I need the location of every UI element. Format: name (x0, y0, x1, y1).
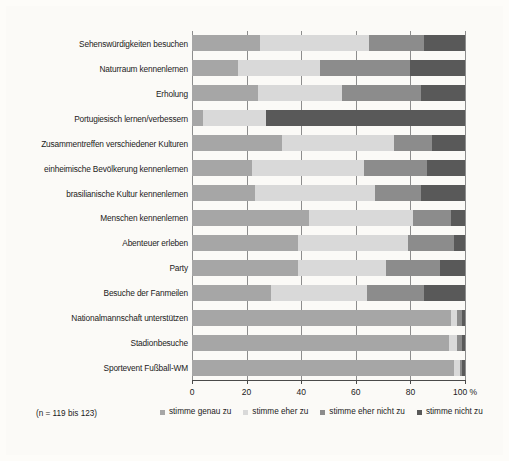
category-label: Abenteuer erleben (2, 238, 188, 248)
bar-segment-4 (462, 310, 465, 326)
bar-row (192, 235, 465, 251)
bar-segment-2 (271, 285, 367, 301)
axis-tick (356, 380, 357, 384)
category-label: Zusammentreffen verschiedener Kulturen (2, 139, 188, 149)
bar-segment-1 (192, 360, 454, 376)
category-label: einheimische Bevölkerung kennenlernen (2, 164, 188, 174)
bar-segment-3 (369, 35, 424, 51)
axis-tick-label: 80 (406, 387, 415, 397)
bar-row (192, 135, 465, 151)
bar-segment-4 (410, 60, 465, 76)
gridline-40 (301, 31, 302, 380)
bar-segment-1 (192, 160, 252, 176)
bar-segment-3 (386, 260, 441, 276)
bar-row (192, 60, 465, 76)
bar-segment-1 (192, 335, 449, 351)
bar-row (192, 210, 465, 226)
category-label: Stadionbesuche (2, 338, 188, 348)
chart-legend: stimme genau zustimme eher zustimme eher… (160, 408, 483, 416)
gridline-100 (465, 31, 466, 380)
axis-tick-label: 100 % (453, 387, 477, 397)
bar-segment-4 (462, 360, 465, 376)
axis-tick (247, 380, 248, 384)
legend-item[interactable]: stimme eher nicht zu (320, 408, 405, 416)
bar-row (192, 35, 465, 51)
category-label: Nationalmannschaft unterstützen (2, 313, 188, 323)
bar-segment-1 (192, 35, 260, 51)
bar-segment-3 (364, 160, 427, 176)
axis-tick (301, 380, 302, 384)
bar-row (192, 110, 465, 126)
axis-tick-label: 20 (242, 387, 251, 397)
legend-label: stimme genau zu (169, 408, 231, 416)
bar-segment-3 (320, 60, 410, 76)
bar-segment-2 (298, 235, 407, 251)
gridline-60 (356, 31, 357, 380)
bar-segment-2 (449, 335, 457, 351)
legend-label: stimme eher nicht zu (329, 408, 405, 416)
bar-segment-4 (424, 285, 465, 301)
bar-segment-2 (238, 60, 320, 76)
category-label: Besuche der Fanmeilen (2, 288, 188, 298)
bar-segment-2 (309, 210, 413, 226)
bar-segment-4 (440, 260, 465, 276)
axis-tick (192, 380, 193, 384)
bar-segment-4 (451, 210, 465, 226)
category-label: Erholung (2, 89, 188, 99)
category-label: Portugiesisch lernen/verbessern (2, 114, 188, 124)
bar-segment-2 (258, 85, 343, 101)
legend-item[interactable]: stimme genau zu (160, 408, 231, 416)
bar-segment-4 (424, 35, 465, 51)
bar-segment-1 (192, 110, 203, 126)
bar-segment-1 (192, 85, 258, 101)
stacked-bar-plot-area (192, 31, 465, 380)
bar-segment-4 (427, 160, 465, 176)
bar-segment-4 (421, 85, 465, 101)
x-axis-line (192, 380, 465, 381)
category-label: brasilianische Kultur kennenlernen (2, 189, 188, 199)
category-label: Naturraum kennenlernen (2, 64, 188, 74)
gridline-20 (247, 31, 248, 380)
legend-label: stimme nicht zu (426, 408, 483, 416)
bar-segment-1 (192, 285, 271, 301)
bar-segment-4 (462, 335, 465, 351)
bar-segment-4 (266, 110, 465, 126)
bar-segment-2 (255, 185, 375, 201)
category-label: Menschen kennenlernen (2, 213, 188, 223)
legend-item[interactable]: stimme nicht zu (417, 408, 483, 416)
bar-segment-3 (367, 285, 424, 301)
axis-tick (465, 380, 466, 384)
bar-segment-1 (192, 310, 451, 326)
legend-item[interactable]: stimme eher zu (243, 408, 308, 416)
bar-segment-1 (192, 235, 298, 251)
bar-row (192, 85, 465, 101)
legend-swatch-icon (417, 410, 422, 415)
bar-segment-1 (192, 135, 282, 151)
bar-segment-3 (413, 210, 451, 226)
bar-segment-2 (203, 110, 266, 126)
bar-segment-1 (192, 260, 298, 276)
bar-row (192, 260, 465, 276)
legend-label: stimme eher zu (252, 408, 308, 416)
axis-tick-label: 60 (351, 387, 360, 397)
legend-swatch-icon (320, 410, 325, 415)
bar-row (192, 185, 465, 201)
category-label: Sehenswürdigkeiten besuchen (2, 39, 188, 49)
category-label-column: Sehenswürdigkeiten besuchenNaturraum ken… (0, 31, 188, 380)
legend-swatch-icon (243, 410, 248, 415)
bar-segment-3 (408, 235, 454, 251)
bar-segment-1 (192, 210, 309, 226)
bar-segment-2 (298, 260, 385, 276)
bar-segment-3 (375, 185, 421, 201)
chart-page: Sehenswürdigkeiten besuchenNaturraum ken… (0, 0, 509, 461)
bar-segment-4 (432, 135, 465, 151)
axis-tick-label: 40 (296, 387, 305, 397)
bar-segment-4 (421, 185, 465, 201)
category-label: Party (2, 263, 188, 273)
bar-segment-2 (282, 135, 394, 151)
legend-swatch-icon (160, 410, 165, 415)
axis-tick-label: 0 (190, 387, 195, 397)
sample-size-note: (n = 119 bis 123) (36, 409, 97, 418)
gridline-80 (410, 31, 411, 380)
bar-row (192, 285, 465, 301)
